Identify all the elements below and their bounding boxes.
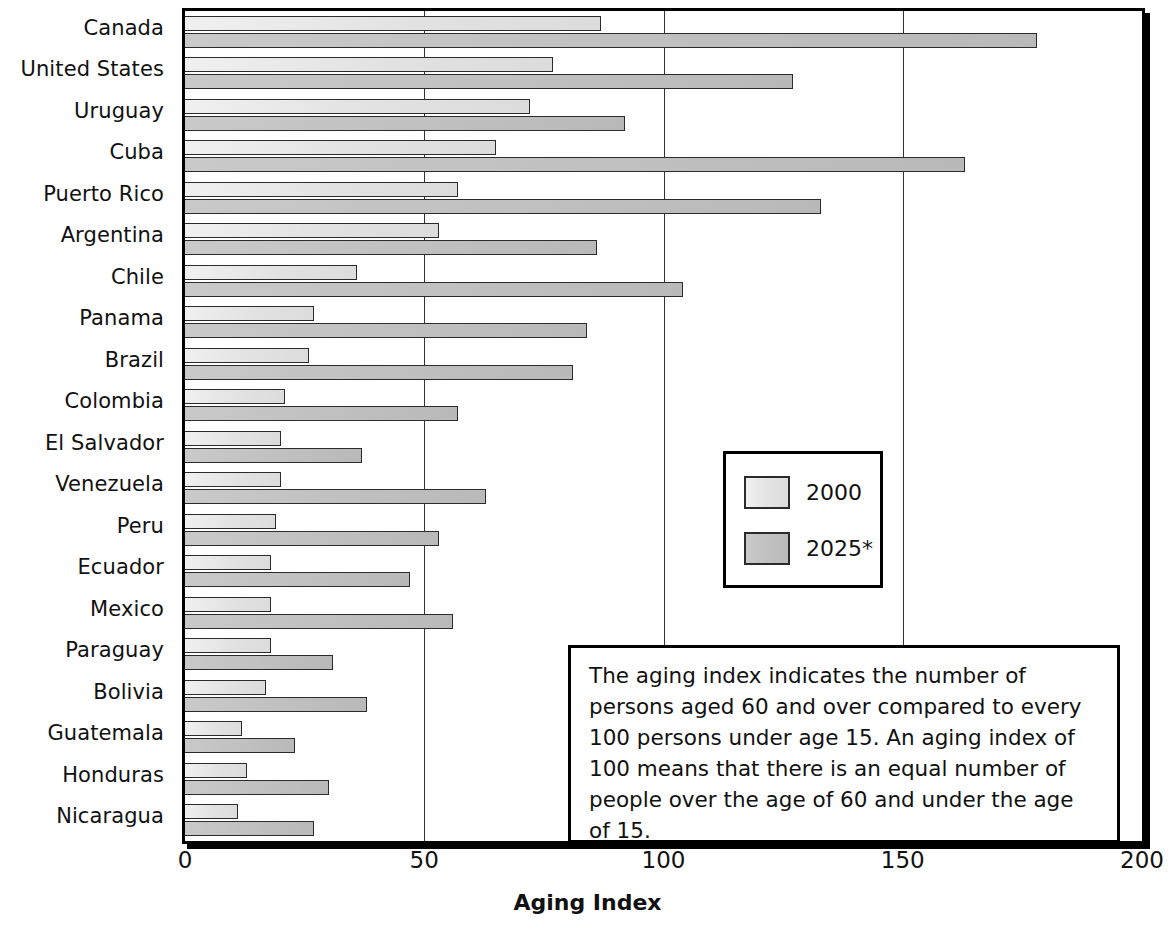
note-text: The aging index indicates the number of … bbox=[589, 660, 1101, 846]
x-tick-label-50: 50 bbox=[410, 849, 439, 872]
x-tick-label-100: 100 bbox=[642, 849, 686, 872]
bar bbox=[185, 265, 357, 280]
bar bbox=[185, 614, 453, 629]
gridline-50 bbox=[424, 11, 425, 841]
category-label: Honduras bbox=[0, 765, 164, 786]
aging-index-bar-chart: CanadaUnited StatesUruguayCubaPuerto Ric… bbox=[0, 0, 1175, 930]
note-box: The aging index indicates the number of … bbox=[568, 645, 1120, 843]
category-label: Guatemala bbox=[0, 723, 164, 744]
category-label: Mexico bbox=[0, 599, 164, 620]
legend-label-2025: 2025* bbox=[806, 538, 873, 560]
category-label: Puerto Rico bbox=[0, 184, 164, 205]
bar bbox=[185, 821, 314, 836]
category-label: Canada bbox=[0, 18, 164, 39]
bar bbox=[185, 680, 266, 695]
x-axis-title: Aging Index bbox=[0, 890, 1175, 915]
bar bbox=[185, 572, 410, 587]
value-axis-ticks: 050100150200 bbox=[182, 849, 1150, 889]
category-label: Panama bbox=[0, 308, 164, 329]
category-label: Nicaragua bbox=[0, 806, 164, 827]
bar bbox=[185, 33, 1037, 48]
bar bbox=[185, 157, 965, 172]
x-tick-label-200: 200 bbox=[1120, 849, 1164, 872]
legend-label-2000: 2000 bbox=[806, 482, 862, 504]
bar bbox=[185, 763, 247, 778]
bar bbox=[185, 74, 793, 89]
category-label: Uruguay bbox=[0, 101, 164, 122]
bar bbox=[185, 697, 367, 712]
category-label: Brazil bbox=[0, 350, 164, 371]
bar bbox=[185, 597, 271, 612]
category-label: Peru bbox=[0, 516, 164, 537]
bar bbox=[185, 780, 329, 795]
bar bbox=[185, 472, 281, 487]
category-label: Chile bbox=[0, 267, 164, 288]
bar bbox=[185, 389, 285, 404]
bar bbox=[185, 348, 309, 363]
bar bbox=[185, 306, 314, 321]
bar bbox=[185, 140, 496, 155]
bar bbox=[185, 323, 587, 338]
category-axis-labels: CanadaUnited StatesUruguayCubaPuerto Ric… bbox=[0, 8, 172, 844]
category-label: Paraguay bbox=[0, 640, 164, 661]
plot-frame-shadow-right bbox=[1145, 13, 1150, 849]
bar bbox=[185, 365, 573, 380]
bar bbox=[185, 223, 439, 238]
bar bbox=[185, 199, 821, 214]
category-label: El Salvador bbox=[0, 433, 164, 454]
category-label: Colombia bbox=[0, 391, 164, 412]
category-label: United States bbox=[0, 59, 164, 80]
chart-legend: 2000 2025* bbox=[723, 451, 883, 588]
bar bbox=[185, 514, 276, 529]
bar bbox=[185, 638, 271, 653]
legend-swatch-2000 bbox=[744, 476, 790, 509]
bar bbox=[185, 489, 486, 504]
bar bbox=[185, 16, 601, 31]
category-label: Argentina bbox=[0, 225, 164, 246]
legend-swatch-2025 bbox=[744, 532, 790, 565]
bar bbox=[185, 282, 683, 297]
bar bbox=[185, 99, 530, 114]
bar bbox=[185, 555, 271, 570]
x-tick-label-0: 0 bbox=[178, 849, 193, 872]
bar bbox=[185, 406, 458, 421]
bar bbox=[185, 531, 439, 546]
category-label: Bolivia bbox=[0, 682, 164, 703]
bar bbox=[185, 448, 362, 463]
bar bbox=[185, 655, 333, 670]
x-tick-label-150: 150 bbox=[881, 849, 925, 872]
legend-item-2025[interactable]: 2025* bbox=[744, 532, 873, 565]
category-label: Venezuela bbox=[0, 474, 164, 495]
category-label: Cuba bbox=[0, 142, 164, 163]
bar bbox=[185, 116, 625, 131]
bar bbox=[185, 721, 242, 736]
bar bbox=[185, 57, 553, 72]
category-label: Ecuador bbox=[0, 557, 164, 578]
bar bbox=[185, 804, 238, 819]
bar bbox=[185, 738, 295, 753]
legend-item-2000[interactable]: 2000 bbox=[744, 476, 862, 509]
bar bbox=[185, 240, 597, 255]
bar bbox=[185, 431, 281, 446]
bar bbox=[185, 182, 458, 197]
